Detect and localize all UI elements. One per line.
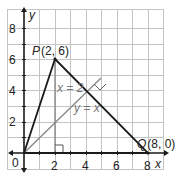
x-tick-6: 6 — [113, 159, 120, 173]
y-axis-label: y — [28, 8, 36, 22]
x-tick-8: 8 — [144, 159, 151, 173]
x-tick-2: 2 — [51, 159, 58, 173]
right-angle-marker-hypotenuse — [94, 84, 106, 90]
label-y-equals-x: y = x — [73, 101, 101, 115]
point-Q-label: Q(8, 0) — [137, 137, 175, 151]
coordinate-diagram: 2 4 6 8 2 4 6 8 0 x y P(2, 6) Q(8, 0) x … — [0, 0, 191, 179]
y-tick-4: 4 — [9, 84, 16, 98]
y-tick-8: 8 — [9, 22, 16, 36]
origin-label: 0 — [12, 156, 19, 170]
x-tick-4: 4 — [82, 159, 89, 173]
y-tick-6: 6 — [9, 53, 16, 67]
label-x-equals-2: x = 2 — [56, 81, 84, 95]
x-axis-label: x — [154, 157, 162, 171]
point-P-label: P(2, 6) — [32, 44, 69, 58]
right-angle-marker-foot — [55, 145, 63, 153]
y-tick-2: 2 — [9, 115, 16, 129]
point-Q — [146, 151, 149, 154]
